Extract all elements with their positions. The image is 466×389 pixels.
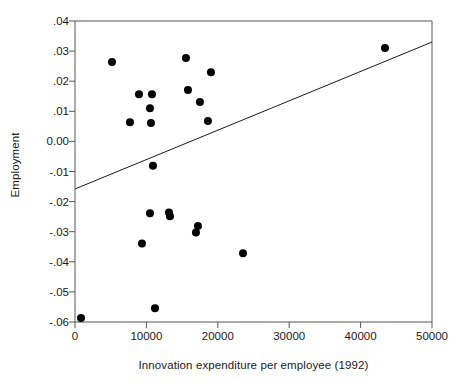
y-tick-label: -.06 [49, 316, 69, 328]
data-point [239, 249, 247, 257]
y-tick-label: -.01 [49, 166, 69, 178]
data-point [381, 44, 389, 52]
x-tick-label: 0 [72, 330, 78, 342]
y-axis-label: Employment [0, 0, 30, 330]
y-axis-label-text: Employment [9, 133, 21, 198]
data-point [147, 119, 155, 127]
scatter-plot-figure: Employment .04.03.02.010.00-.01-.02-.03-… [0, 0, 466, 389]
y-tick-label: .04 [53, 15, 69, 27]
y-tick-label: .02 [53, 75, 69, 87]
x-tick-label: 50000 [416, 330, 448, 342]
data-points [77, 44, 389, 322]
x-axis-label: Innovation expenditure per employee (199… [75, 359, 432, 371]
data-point [151, 304, 159, 312]
y-axis-ticks [69, 21, 75, 322]
axes-frame [75, 21, 432, 322]
data-point [204, 117, 212, 125]
x-axis-label-text: Innovation expenditure per employee (199… [139, 359, 369, 371]
data-point [166, 212, 174, 220]
data-point [138, 239, 146, 247]
y-tick-label: .01 [53, 105, 69, 117]
y-tick-label: 0.00 [47, 135, 69, 147]
data-point [184, 86, 192, 94]
data-point [77, 314, 85, 322]
data-point [194, 222, 202, 230]
data-point [148, 90, 156, 98]
data-point [149, 162, 157, 170]
data-point [135, 90, 143, 98]
regression-line [75, 42, 432, 189]
x-axis-ticks [75, 322, 432, 328]
x-tick-label: 40000 [345, 330, 377, 342]
data-point [108, 58, 116, 66]
data-point [196, 98, 204, 106]
y-tick-label: .03 [53, 45, 69, 57]
data-point [146, 209, 154, 217]
y-tick-label: -.02 [49, 196, 69, 208]
data-point [146, 104, 154, 112]
data-point [182, 54, 190, 62]
y-tick-label: -.04 [49, 256, 69, 268]
x-tick-label: 10000 [130, 330, 162, 342]
y-tick-label: -.05 [49, 286, 69, 298]
x-tick-label: 20000 [202, 330, 234, 342]
y-tick-label: -.03 [49, 226, 69, 238]
data-point [126, 118, 134, 126]
data-point [207, 68, 215, 76]
x-tick-label: 30000 [273, 330, 305, 342]
y-tick-labels: .04.03.02.010.00-.01-.02-.03-.04-.05-.06 [30, 0, 69, 389]
